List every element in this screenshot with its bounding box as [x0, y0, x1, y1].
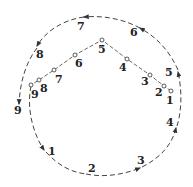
- inner-label-7: 7: [55, 73, 63, 86]
- inner-polyline: 123456789: [29, 38, 174, 107]
- inner-label-4: 4: [119, 61, 127, 74]
- outer-label-2: 2: [88, 162, 96, 175]
- inner-label-1: 1: [166, 94, 174, 107]
- inner-label-5: 5: [98, 43, 106, 56]
- inner-node-9: [29, 83, 33, 87]
- outer-label-5: 5: [165, 66, 173, 79]
- diagram-svg: 123456789 123456789: [0, 0, 193, 187]
- inner-node-5: [100, 38, 104, 42]
- outer-label-6: 6: [130, 26, 138, 39]
- outer-label-9: 9: [14, 104, 22, 117]
- outer-label-7: 7: [77, 20, 85, 33]
- outer-label-3: 3: [137, 154, 145, 167]
- inner-label-2: 2: [155, 86, 163, 99]
- inner-node-1: [169, 89, 173, 93]
- inner-node-7: [52, 68, 56, 72]
- outer-label-8: 8: [36, 48, 44, 61]
- outer-label-4: 4: [166, 116, 174, 129]
- inner-label-8: 8: [40, 82, 48, 95]
- inner-label-9: 9: [31, 88, 39, 101]
- diagram-canvas: 123456789 123456789: [0, 0, 193, 187]
- inner-label-6: 6: [75, 57, 83, 70]
- inner-label-3: 3: [141, 75, 149, 88]
- outer-label-1: 1: [48, 145, 56, 158]
